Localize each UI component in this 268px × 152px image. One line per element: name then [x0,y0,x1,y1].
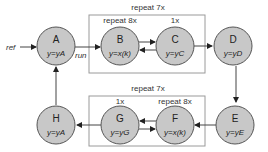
node-h-eq: y=yA [46,128,65,137]
node-g-label: G [116,113,124,124]
edge-run-label: run [75,51,87,60]
bottom-left-label: 1x [116,97,124,106]
node-b[interactable]: B y=x(k) [101,27,139,65]
bottom-outer-label: repeat 7x [131,84,164,93]
node-h[interactable]: H y=yA [37,106,75,144]
node-g-eq: y=yG [110,128,130,137]
node-b-eq: y=x(k) [108,49,131,58]
node-d[interactable]: D y=yD [214,27,252,65]
node-b-label: B [117,34,124,45]
node-d-label: D [229,34,236,45]
node-e-eq: y=yE [225,128,245,137]
node-c-label: C [171,34,178,45]
node-d-eq: y=yD [223,49,243,58]
state-diagram: repeat 7x repeat 8x 1x repeat 7x 1x repe… [0,0,268,152]
node-a-eq: y=yA [46,49,65,58]
node-a-label: A [53,34,60,45]
node-g[interactable]: G y=yG [101,106,139,144]
node-h-label: H [52,113,59,124]
node-f-eq: y=x(k) [163,128,186,137]
node-e-label: E [232,113,239,124]
top-outer-label: repeat 7x [131,3,164,12]
node-e[interactable]: E y=yE [216,106,254,144]
edge-ref-label: ref [6,43,16,52]
bottom-right-label: repeat 8x [158,97,191,106]
node-c[interactable]: C y=yC [156,27,194,65]
node-f-label: F [172,113,178,124]
top-left-label: repeat 8x [103,16,136,25]
top-right-label: 1x [171,16,179,25]
node-a[interactable]: A y=yA [37,27,75,65]
node-c-eq: y=yC [165,49,185,58]
node-f[interactable]: F y=x(k) [156,106,194,144]
